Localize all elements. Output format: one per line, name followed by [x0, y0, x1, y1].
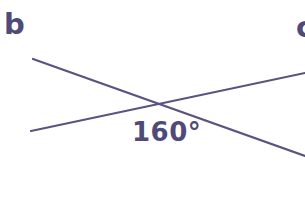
angle-value-label: 160° [132, 119, 201, 145]
angle-diagram-figure: b c 160° [0, 0, 305, 209]
diagram-canvas [0, 0, 305, 209]
part-label-c: c [296, 13, 305, 42]
part-label-b: b [4, 10, 25, 39]
